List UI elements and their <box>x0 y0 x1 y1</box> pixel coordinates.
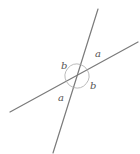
shallow-line <box>10 42 138 112</box>
label-b-left: b <box>61 60 67 71</box>
angle-diagram: a b b a <box>0 0 140 154</box>
label-a-top: a <box>95 48 101 59</box>
angle-arc-a-top <box>81 65 88 71</box>
angle-arc-a-bottom <box>67 82 74 88</box>
label-b-right: b <box>90 80 96 91</box>
label-a-bottom: a <box>58 92 64 103</box>
